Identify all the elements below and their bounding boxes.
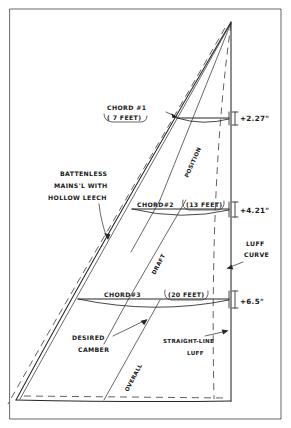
chord-3-camber-arc: [78, 299, 229, 307]
chord-3-length: (20 FEET): [168, 291, 204, 298]
chord-3-luff-curve-value: +6.5": [240, 297, 264, 306]
chord-1-name: CHORD #1: [107, 104, 146, 111]
position-label: POSITION: [183, 146, 202, 178]
sail-diagram: CHORD #1 ( 7 FEET) +2.27" CHORD#2 (13 FE…: [0, 0, 291, 428]
straight-line-luff-leader: [205, 330, 229, 336]
sail-description-line-3: HOLLOW LEECH: [48, 194, 107, 201]
diagram-page: CHORD #1 ( 7 FEET) +2.27" CHORD#2 (13 FE…: [0, 0, 291, 428]
luff-curve-leader: [227, 262, 244, 269]
chord-1-length: ( 7 FEET): [107, 114, 141, 121]
leech-construction-dashed: [8, 28, 225, 404]
chord-3-dimension: [232, 291, 238, 308]
chord-2-name: CHORD#2: [137, 201, 174, 208]
luff-curve-line-2: CURVE: [244, 251, 269, 258]
draft-label: DRAFT: [151, 253, 167, 276]
chord-2-length: (13 FEET): [186, 201, 222, 208]
foot-construction-dashed: [24, 396, 228, 398]
desired-camber-line-2: CAMBER: [78, 346, 109, 353]
chord-1-camber-arc: [177, 118, 229, 122]
chord-2-dimension: [232, 202, 238, 217]
luff-curve-line-1: LUFF: [246, 240, 265, 247]
sail-description-leader: [99, 204, 110, 240]
overall-label: OVERALL: [124, 362, 144, 392]
sail-description-line-1: BATTENLESS: [60, 170, 107, 177]
sail-description-line-2: MAINS'L WITH: [54, 182, 108, 189]
desired-camber-line-1: DESIRED: [72, 334, 105, 341]
desired-camber-leader: [113, 319, 148, 336]
sail-outline: [16, 22, 231, 402]
chord-2-luff-curve-value: +4.21": [240, 206, 269, 215]
foot-line: [16, 400, 231, 402]
chord-3-name: CHORD#3: [104, 291, 141, 298]
chord-1-luff-curve-value: +2.27": [240, 114, 269, 123]
chord-1-dimension: [232, 112, 238, 125]
position-seam-line: [160, 23, 231, 200]
straight-line-luff-line-1: STRAIGHT-LINE: [163, 338, 214, 344]
straight-line-luff-line-2: LUFF: [187, 350, 204, 356]
chord-3-group: [78, 291, 229, 308]
